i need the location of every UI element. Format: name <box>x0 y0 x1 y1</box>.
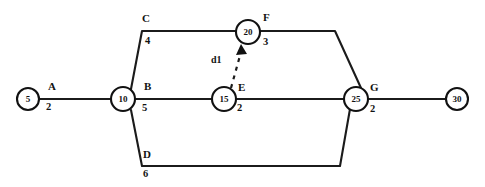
node-10[interactable]: 10 <box>111 87 135 111</box>
duration-label-e: 2 <box>237 102 242 113</box>
node-15[interactable]: 15 <box>212 87 236 111</box>
network-diagram-canvas: 5 10 15 20 25 30 <box>0 0 485 187</box>
arrowhead-icon-dummy-d1 <box>236 44 247 55</box>
activity-label-b: B <box>144 80 152 92</box>
node-label-10: 10 <box>119 94 129 104</box>
duration-label-c: 4 <box>145 35 151 46</box>
activity-label-e: E <box>238 81 245 93</box>
duration-label-a: 2 <box>46 101 51 112</box>
node-30[interactable]: 30 <box>446 88 468 110</box>
node-label-15: 15 <box>220 94 230 104</box>
activity-label-g: G <box>370 81 379 93</box>
node-label-5: 5 <box>26 94 31 104</box>
node-20[interactable]: 20 <box>236 20 260 44</box>
node-label-20: 20 <box>244 27 254 37</box>
edge-activity-d <box>131 109 350 166</box>
node-group: 5 10 15 20 25 30 <box>17 20 468 111</box>
node-25[interactable]: 25 <box>344 87 368 111</box>
activity-label-d: D <box>143 148 151 160</box>
activity-label-f: F <box>263 11 270 23</box>
node-5[interactable]: 5 <box>17 88 39 110</box>
activity-label-dummy-d1: d1 <box>211 54 222 65</box>
node-label-30: 30 <box>453 94 463 104</box>
duration-label-b: 5 <box>142 102 147 113</box>
activity-label-a: A <box>48 80 56 92</box>
activity-label-c: C <box>142 12 150 24</box>
activity-label-group: A C B D E F G d1 <box>48 11 379 160</box>
duration-label-g: 2 <box>370 103 375 114</box>
network-diagram-svg: 5 10 15 20 25 30 <box>0 0 485 187</box>
duration-label-d: 6 <box>143 168 148 179</box>
node-label-25: 25 <box>352 94 362 104</box>
duration-label-f: 3 <box>263 36 268 47</box>
edge-activity-f <box>260 31 361 88</box>
